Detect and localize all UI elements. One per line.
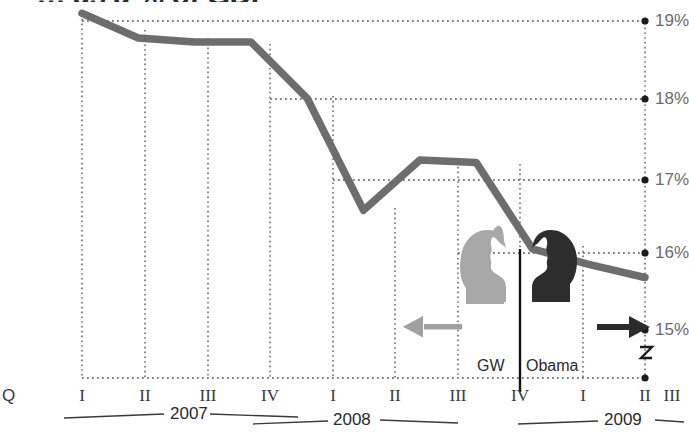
year-rule-right [210,414,298,417]
year-rule-left [518,421,598,424]
x-year-label-2009: 2009 [604,410,642,430]
year-rule-left [253,421,328,424]
x-year-label-2008: 2008 [333,410,371,430]
year-rule-right [655,420,684,422]
year-rule-right [380,420,458,423]
year-rule-left [64,414,164,418]
x-year-label-2007: 2007 [170,404,208,424]
